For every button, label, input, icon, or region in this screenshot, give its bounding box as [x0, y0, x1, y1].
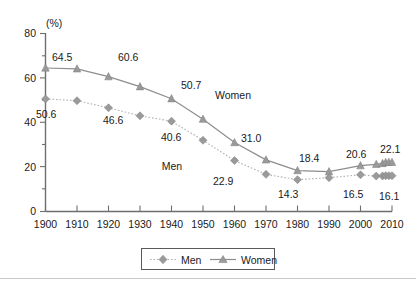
x-tick-label-1960: 1960 — [223, 218, 247, 230]
x-tick-label-1920: 1920 — [97, 218, 121, 230]
x-axis-ticks — [46, 206, 393, 212]
x-tick-label-1970: 1970 — [254, 218, 278, 230]
value-label-men-1960: 22.9 — [213, 175, 234, 187]
legend: Men Women — [142, 249, 278, 270]
x-tick-label-1940: 1940 — [160, 218, 184, 230]
value-label-men-1980: 14.3 — [278, 188, 299, 200]
value-label-men-1940: 40.6 — [161, 131, 182, 143]
marker-diamond-men — [105, 104, 113, 112]
value-label-men-2010: 16.1 — [379, 190, 400, 202]
value-label-women-1920: 60.6 — [118, 51, 139, 63]
data-value-labels: 64.5 60.6 50.7 31.0 18.4 20.6 22.1 50.6 … — [36, 51, 401, 202]
y-tick-label-40: 40 — [24, 116, 36, 128]
marker-triangle-women — [199, 115, 207, 122]
x-tick-label-1900: 1900 — [34, 218, 58, 230]
chart-container: 80 60 40 20 0 (%) 1900 1910 1920 — [0, 0, 416, 283]
y-axis-ticks — [40, 34, 46, 212]
x-axis-tick-labels: 1900 1910 1920 1930 1940 1950 1960 1970 … — [34, 218, 404, 230]
value-label-women-2010: 22.1 — [380, 143, 401, 155]
value-label-men-1920: 46.6 — [103, 114, 124, 126]
marker-triangle-women — [231, 138, 239, 145]
x-tick-label-2000: 2000 — [349, 218, 373, 230]
marker-diamond-men — [357, 171, 365, 179]
value-label-women-1940: 50.7 — [181, 79, 202, 91]
y-axis-unit-label: (%) — [46, 17, 62, 29]
marker-diamond-men — [262, 170, 270, 178]
annotation-women: Women — [215, 89, 251, 101]
marker-diamond-men — [42, 95, 50, 103]
legend-label-women: Women — [241, 254, 277, 266]
x-tick-label-1930: 1930 — [128, 218, 152, 230]
series-markers-men — [42, 95, 397, 184]
y-tick-label-80: 80 — [24, 27, 36, 39]
marker-diamond-men — [73, 97, 81, 105]
marker-diamond-men — [168, 117, 176, 125]
y-tick-label-20: 20 — [24, 161, 36, 173]
x-tick-label-1980: 1980 — [286, 218, 310, 230]
series-line-men — [46, 99, 393, 180]
marker-diamond-men — [199, 136, 207, 144]
line-chart: 80 60 40 20 0 (%) 1900 1910 1920 — [0, 0, 416, 283]
value-label-women-2000: 20.6 — [346, 148, 367, 160]
marker-diamond-men — [231, 157, 239, 165]
value-label-women-1900: 64.5 — [52, 51, 73, 63]
y-tick-label-0: 0 — [30, 205, 36, 217]
series-line-women — [46, 68, 393, 172]
x-tick-label-1950: 1950 — [191, 218, 215, 230]
x-tick-label-1910: 1910 — [65, 218, 89, 230]
x-tick-label-2010: 2010 — [380, 218, 404, 230]
x-tick-label-1990: 1990 — [317, 218, 341, 230]
value-label-men-1900: 50.6 — [36, 108, 57, 120]
marker-diamond-men — [294, 176, 302, 184]
value-label-women-1980: 18.4 — [299, 152, 320, 164]
value-label-women-1960: 31.0 — [241, 132, 262, 144]
legend-label-men: Men — [181, 254, 202, 266]
annotation-men: Men — [162, 160, 183, 172]
marker-triangle-women — [262, 156, 270, 163]
value-label-men-2000: 16.5 — [343, 188, 364, 200]
series-markers-women — [42, 64, 396, 175]
y-tick-label-60: 60 — [24, 72, 36, 84]
y-axis-tick-labels: 80 60 40 20 0 — [24, 27, 36, 217]
marker-diamond-men — [136, 112, 144, 120]
